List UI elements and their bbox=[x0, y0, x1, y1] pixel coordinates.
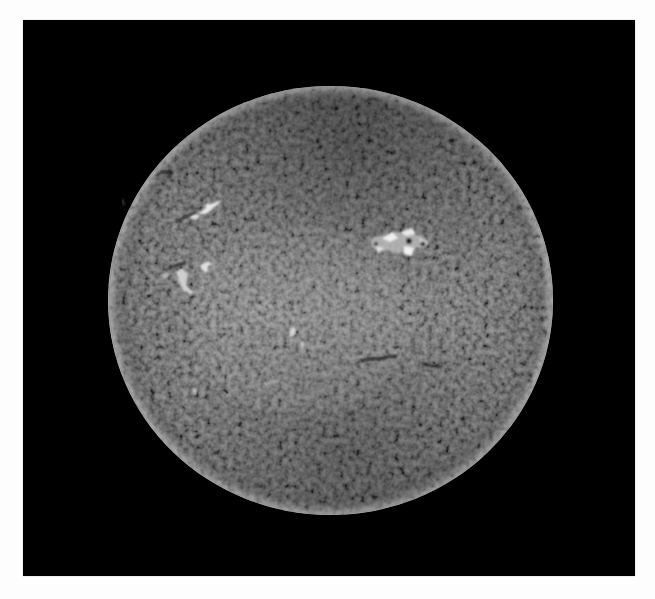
sun-image bbox=[23, 20, 635, 576]
limb-highlight bbox=[108, 86, 553, 515]
solar-photograph bbox=[23, 20, 635, 576]
page: Full solar disk in H-alpha bbox=[0, 0, 655, 599]
